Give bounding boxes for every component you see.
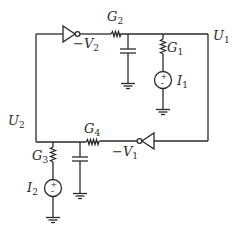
circuit-schematic xyxy=(0,0,239,236)
label-u2: U2 xyxy=(8,114,25,130)
i2-minus-mark: - xyxy=(51,187,54,196)
ground-icon xyxy=(73,194,87,199)
capacitor-top-icon xyxy=(120,34,136,83)
ground-icon xyxy=(46,218,60,223)
capacitor-bottom-icon xyxy=(72,142,88,193)
circuit-diagram: + - + - G2 −V2 U1 G1 I1 U2 G4 −V1 G3 I2 xyxy=(0,0,239,236)
label-minus-v2: −V2 xyxy=(73,37,99,53)
label-minus-v1: −V1 xyxy=(112,145,138,161)
resistor-g2-icon xyxy=(111,32,122,37)
ground-icon xyxy=(121,84,135,89)
resistor-g1-icon xyxy=(161,34,166,72)
ground-icon xyxy=(156,110,170,115)
label-u1: U1 xyxy=(213,29,230,45)
label-i1: I1 xyxy=(177,74,188,90)
label-g3: G3 xyxy=(32,149,48,165)
label-g1: G1 xyxy=(167,41,183,57)
i1-minus-mark: - xyxy=(161,79,164,88)
label-g4: G4 xyxy=(84,122,100,138)
label-i2: I2 xyxy=(27,181,38,197)
inverter-bottom-icon xyxy=(137,133,154,149)
resistor-g3-icon xyxy=(51,142,56,180)
resistor-g4-icon xyxy=(86,140,100,145)
label-g2: G2 xyxy=(107,10,123,26)
